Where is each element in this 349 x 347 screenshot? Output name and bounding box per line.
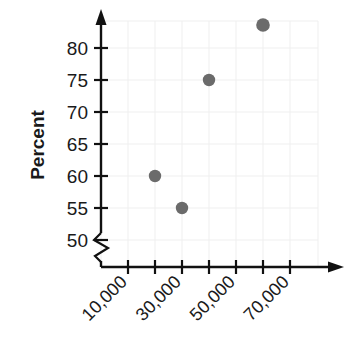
data-point	[203, 74, 215, 86]
data-point	[149, 170, 161, 182]
data-point	[256, 18, 270, 32]
y-tick-label-75: 75	[67, 70, 88, 91]
y-tick-label-65: 65	[67, 134, 88, 155]
chart-canvas: 80 75 70 65 60 55 50 Percent 10,000 30,0…	[0, 0, 349, 347]
scatter-plot-figure: 80 75 70 65 60 55 50 Percent 10,000 30,0…	[0, 0, 349, 347]
y-tick-label-55: 55	[67, 198, 88, 219]
y-tick-label-70: 70	[67, 102, 88, 123]
data-point	[176, 202, 188, 214]
y-tick-label-60: 60	[67, 166, 88, 187]
y-axis-title: Percent	[27, 109, 48, 179]
y-tick-label-50: 50	[67, 230, 88, 251]
y-tick-label-80: 80	[67, 38, 88, 59]
